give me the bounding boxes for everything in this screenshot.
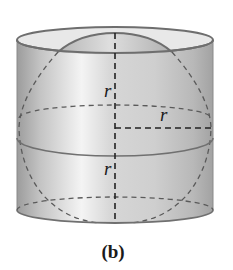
figure-caption: (b) [101,241,124,263]
label-lower-radius: r [104,158,112,179]
sphere-in-cylinder-diagram: r r r (b) [0,0,233,270]
label-upper-radius: r [104,80,112,101]
label-horizontal-radius: r [160,104,168,125]
